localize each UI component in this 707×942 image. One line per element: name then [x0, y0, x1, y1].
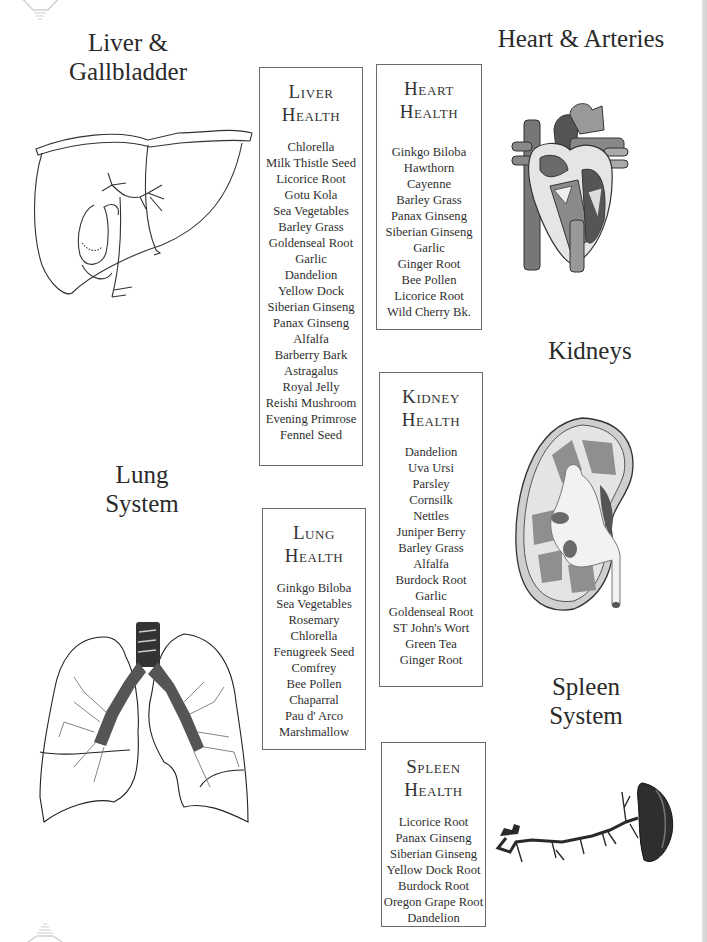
herb-item: Licorice Root — [382, 814, 485, 830]
herb-item: Burdock Root — [382, 878, 485, 894]
herb-item: Astragalus — [260, 363, 362, 379]
herb-item: Reishi Mushroom — [260, 395, 362, 411]
lung-health-box: Lung Health Ginkgo Biloba Sea Vegetables… — [262, 508, 366, 750]
herb-item: Yellow Dock — [260, 283, 362, 299]
herb-item: Green Tea — [380, 636, 482, 652]
corner-diamond-icon — [25, 920, 65, 942]
herb-item: Garlic — [377, 240, 481, 256]
herb-item: Ginkgo Biloba — [263, 580, 365, 596]
lung-herb-list: Ginkgo Biloba Sea Vegetables Rosemary Ch… — [263, 580, 365, 740]
box-heading: Liver Health — [260, 80, 362, 126]
herb-item: Goldenseal Root — [380, 604, 482, 620]
lung-section-title: Lung System — [82, 460, 202, 518]
herb-item: Garlic — [380, 588, 482, 604]
heart-health-box: Heart Health Ginkgo Biloba Hawthorn Caye… — [376, 64, 482, 330]
box-heading: Kidney Health — [380, 385, 482, 431]
herb-item: Royal Jelly — [260, 379, 362, 395]
herb-item: Alfalfa — [260, 331, 362, 347]
herb-item: Evening Primrose — [260, 411, 362, 427]
herb-item: Panax Ginseng — [377, 208, 481, 224]
spleen-vessels-illustration — [492, 778, 682, 868]
herb-item: Barberry Bark — [260, 347, 362, 363]
herb-item: Panax Ginseng — [260, 315, 362, 331]
herb-item: Alfalfa — [380, 556, 482, 572]
lungs-bronchi-illustration — [34, 622, 252, 827]
herb-item: Dandelion — [380, 444, 482, 460]
herb-item: Garlic — [260, 251, 362, 267]
herb-item: Ginkgo Biloba — [377, 144, 481, 160]
herb-item: Pau d' Arco — [263, 708, 365, 724]
spleen-herb-list: Licorice Root Panax Ginseng Siberian Gin… — [382, 814, 485, 926]
herb-item: Cayenne — [377, 176, 481, 192]
herb-item: Hawthorn — [377, 160, 481, 176]
page-edge — [702, 0, 707, 942]
herb-item: Chlorella — [260, 139, 362, 155]
herb-item: Chaparral — [263, 692, 365, 708]
box-heading: Spleen Health — [382, 755, 485, 801]
box-heading: Heart Health — [377, 77, 481, 123]
kidney-health-box: Kidney Health Dandelion Uva Ursi Parsley… — [379, 372, 483, 687]
heart-cross-section-illustration — [510, 100, 630, 275]
spleen-health-box: Spleen Health Licorice Root Panax Ginsen… — [381, 742, 486, 927]
herb-item: Rosemary — [263, 612, 365, 628]
herb-item: Marshmallow — [263, 724, 365, 740]
box-heading: Lung Health — [263, 521, 365, 567]
herb-item: Nettles — [380, 508, 482, 524]
liver-herb-list: Chlorella Milk Thistle Seed Licorice Roo… — [260, 139, 362, 443]
heart-herb-list: Ginkgo Biloba Hawthorn Cayenne Barley Gr… — [377, 144, 481, 320]
herb-item: Barley Grass — [260, 219, 362, 235]
liver-gallbladder-illustration — [30, 125, 255, 300]
herb-item: Milk Thistle Seed — [260, 155, 362, 171]
liver-health-box: Liver Health Chlorella Milk Thistle Seed… — [259, 67, 363, 466]
herb-item: Chlorella — [263, 628, 365, 644]
herb-item: Licorice Root — [377, 288, 481, 304]
kidney-cross-section-illustration — [512, 415, 647, 615]
herb-item: Oregon Grape Root — [382, 894, 485, 910]
herb-item: Sea Vegetables — [263, 596, 365, 612]
herb-item: Comfrey — [263, 660, 365, 676]
herb-item: Cornsilk — [380, 492, 482, 508]
herb-item: Uva Ursi — [380, 460, 482, 476]
herb-item: Licorice Root — [260, 171, 362, 187]
corner-diamond-icon — [15, 0, 65, 30]
spleen-section-title: Spleen System — [528, 672, 644, 730]
liver-section-title: Liver & Gallbladder — [48, 28, 208, 86]
kidney-section-title: Kidneys — [530, 336, 650, 365]
herb-item: Burdock Root — [380, 572, 482, 588]
herb-item: Ginger Root — [380, 652, 482, 668]
herb-item: Fenugreek Seed — [263, 644, 365, 660]
kidney-herb-list: Dandelion Uva Ursi Parsley Cornsilk Nett… — [380, 444, 482, 668]
herb-item: Fennel Seed — [260, 427, 362, 443]
herb-item: Parsley — [380, 476, 482, 492]
herb-item: Goldenseal Root — [260, 235, 362, 251]
herb-item: Yellow Dock Root — [382, 862, 485, 878]
herb-item: Panax Ginseng — [382, 830, 485, 846]
herb-item: Dandelion — [260, 267, 362, 283]
herb-item: ST John's Wort — [380, 620, 482, 636]
herb-item: Siberian Ginseng — [260, 299, 362, 315]
herb-item: Wild Cherry Bk. — [377, 304, 481, 320]
herb-item: Siberian Ginseng — [382, 846, 485, 862]
herb-item: Sea Vegetables — [260, 203, 362, 219]
heart-section-title: Heart & Arteries — [484, 24, 678, 53]
herb-item: Bee Pollen — [377, 272, 481, 288]
herb-item: Ginger Root — [377, 256, 481, 272]
herb-item: Barley Grass — [380, 540, 482, 556]
herb-item: Barley Grass — [377, 192, 481, 208]
herb-item: Dandelion — [382, 910, 485, 926]
herb-item: Gotu Kola — [260, 187, 362, 203]
herb-item: Bee Pollen — [263, 676, 365, 692]
herb-item: Siberian Ginseng — [377, 224, 481, 240]
herb-item: Juniper Berry — [380, 524, 482, 540]
